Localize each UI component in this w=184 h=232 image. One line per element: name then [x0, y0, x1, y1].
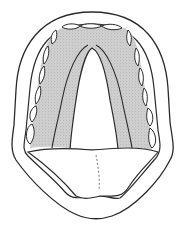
palate-illustration [0, 0, 184, 232]
